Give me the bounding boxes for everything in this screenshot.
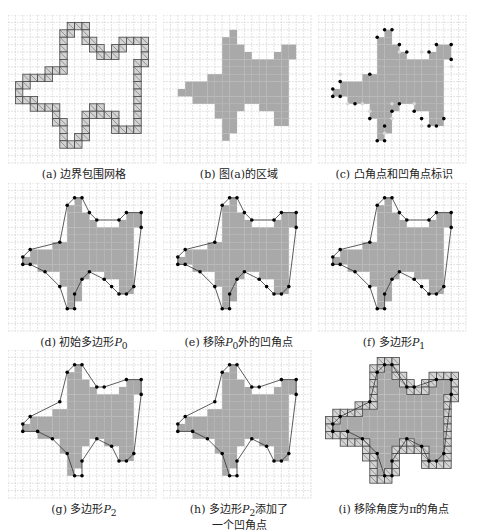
caption-b: (b) 图(a)的区域 xyxy=(159,168,319,181)
remove-concave-diagram xyxy=(163,183,313,333)
region-diagram xyxy=(163,15,313,165)
panel-g: (g) 多边形P2 xyxy=(8,350,160,500)
corner-points-diagram xyxy=(318,15,468,165)
polygon-p2-diagram xyxy=(8,350,158,500)
panel-i: (i) 移除角度为π的角点 xyxy=(318,350,470,500)
panel-f: (f) 多边形P1 xyxy=(318,183,470,333)
polygon-p0-diagram xyxy=(8,183,158,333)
caption-a: (a) 边界包围网格 xyxy=(4,168,164,181)
panel-e: (e) 移除P0外的凹角点 xyxy=(163,183,315,333)
caption-c: (c) 凸角点和凹角点标识 xyxy=(314,168,474,181)
caption-i: (i) 移除角度为π的角点 xyxy=(314,503,474,516)
final-polygon-diagram xyxy=(318,350,468,500)
panel-h: (h) 多边形P2添加了一个凹角点 xyxy=(163,350,315,500)
add-concave-diagram xyxy=(163,350,313,500)
panel-a: (a) 边界包围网格 xyxy=(8,15,160,165)
panel-c: (c) 凸角点和凹角点标识 xyxy=(318,15,470,165)
polygon-p1-diagram xyxy=(318,183,468,333)
boundary-grid-diagram xyxy=(8,15,158,165)
caption-g: (g) 多边形P2 xyxy=(4,503,164,519)
panel-b: (b) 图(a)的区域 xyxy=(163,15,315,165)
caption-h: (h) 多边形P2添加了一个凹角点 xyxy=(159,503,319,532)
panel-d: (d) 初始多边形P0 xyxy=(8,183,160,333)
